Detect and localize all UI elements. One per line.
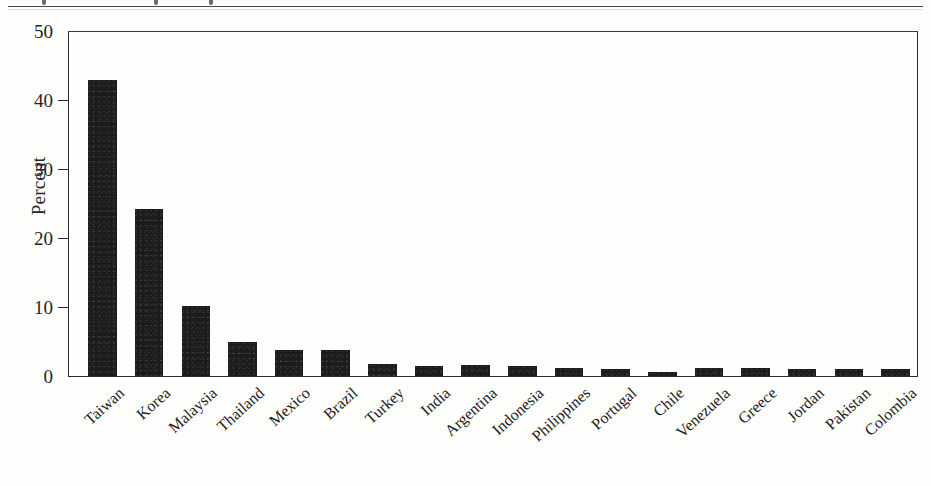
header-rule-shadow [8,9,923,10]
chart-figure: Percent 01020304050 TaiwanKoreaMalaysiaT… [0,0,931,486]
x-axis-tick-label-text: Turkey [361,384,407,428]
bar [415,366,444,376]
bar [741,368,770,376]
y-axis-tick-label-text: 40 [3,91,53,110]
y-axis-tick-label-text: 20 [3,229,53,248]
cut-text-descender [154,0,158,5]
bar [88,80,117,376]
bar [461,365,490,376]
bar [835,369,864,376]
x-axis-tick-label-text: Greece [735,384,781,428]
bar [182,306,211,376]
bar [555,368,584,376]
x-axis-tick-label-text: Chile [649,384,687,421]
x-axis-tick-label-text: Brazil [320,384,361,424]
x-axis-tick-label-text: Malaysia [165,384,221,437]
x-axis-tick-label-text: Portugal [588,384,640,434]
bar [275,350,304,376]
bar [881,369,910,376]
y-axis-tick [58,100,69,101]
bar [228,342,257,376]
x-axis-tick-label-text: Korea [133,384,174,424]
bar [321,350,350,376]
bar [135,209,164,376]
bar [648,372,677,376]
y-axis-tick [58,307,69,308]
y-axis-tick-label-text: 30 [3,160,53,179]
y-axis-tick [58,169,69,170]
y-axis-tick-label-text: 50 [3,22,53,41]
bar [788,369,817,376]
x-tick-label-group: TaiwanKoreaMalaysiaThailandMexicoBrazilT… [0,378,931,486]
header-rule [8,6,923,7]
y-axis-tick [58,238,69,239]
bar [508,366,537,376]
x-axis-tick-label-text: India [418,384,454,419]
x-axis-tick-label-text: Thailand [213,384,267,435]
y-axis-tick-label-text: 10 [3,298,53,317]
cut-text-descender [42,0,46,5]
bar [368,364,397,376]
bar [601,369,630,376]
cut-text-descender [209,0,213,5]
x-axis-tick-label-text: Taiwan [81,384,128,429]
bar-series [69,32,917,376]
x-axis-tick-label-text: Mexico [266,384,314,430]
bar [695,368,724,376]
